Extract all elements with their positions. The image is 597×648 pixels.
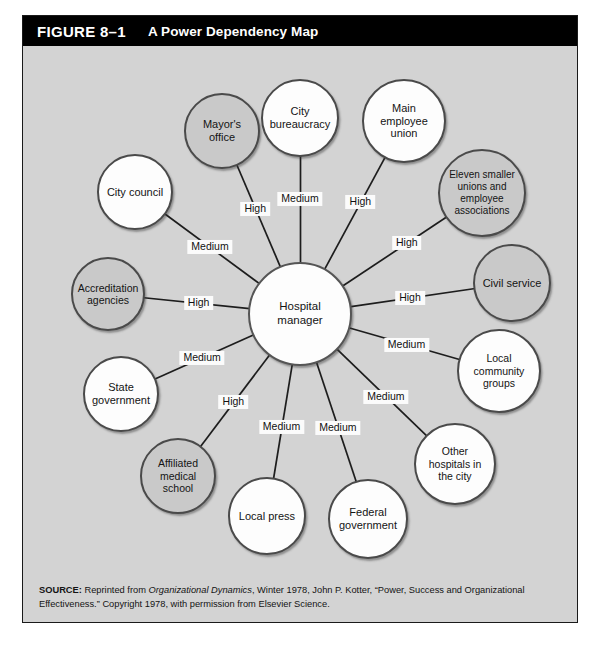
node-label-main-employee-union: Main employee union: [370, 102, 438, 141]
source-note: SOURCE: Reprinted from Organizational Dy…: [23, 576, 577, 622]
edge-hospital-manager-to-main-employee-union: [325, 157, 385, 269]
edge-label-eleven-smaller-unions: High: [392, 236, 422, 250]
node-label-local-community-groups: Local community groups: [464, 352, 534, 389]
node-label-other-hospitals: Other hospitals in the city: [422, 445, 488, 482]
edge-hospital-manager-to-eleven-smaller-unions: [343, 217, 447, 286]
node-label-state-government: State government: [86, 381, 156, 407]
edge-hospital-manager-to-mayors-office: [237, 165, 281, 267]
node-label-local-press: Local press: [236, 510, 298, 523]
source-publication: Organizational Dynamics: [149, 585, 252, 595]
node-federal-government[interactable]: Federal government: [328, 479, 408, 559]
edge-label-other-hospitals: Medium: [363, 390, 408, 404]
figure-frame: FIGURE 8–1 A Power Dependency Map Hospit…: [22, 15, 578, 623]
edge-label-city-council: Medium: [187, 240, 232, 254]
figure-header: FIGURE 8–1 A Power Dependency Map: [23, 16, 577, 46]
node-civil-service[interactable]: Civil service: [473, 244, 551, 322]
node-hospital-manager[interactable]: Hospital manager: [248, 262, 352, 366]
power-dependency-diagram: Hospital managerCity bureaucracyMayor's …: [23, 46, 577, 576]
edge-label-accreditation-agencies: High: [184, 296, 214, 310]
edge-label-local-press: Medium: [259, 420, 304, 434]
node-local-community-groups[interactable]: Local community groups: [457, 329, 541, 413]
node-label-city-bureaucracy: City bureaucracy: [264, 105, 336, 131]
node-label-civil-service: Civil service: [480, 277, 545, 290]
node-mayors-office[interactable]: Mayor's office: [184, 93, 260, 169]
edge-label-state-government: Medium: [179, 351, 224, 365]
edge-label-mayors-office: High: [240, 202, 270, 216]
node-city-bureaucracy[interactable]: City bureaucracy: [261, 79, 339, 157]
edge-label-affiliated-medical-school: High: [219, 395, 249, 409]
source-text-1: Reprinted from: [82, 585, 149, 595]
figure-title: A Power Dependency Map: [148, 24, 319, 39]
node-affiliated-medical-school[interactable]: Affiliated medical school: [140, 438, 216, 514]
node-label-hospital-manager: Hospital manager: [262, 300, 338, 327]
source-label: SOURCE:: [39, 585, 82, 595]
node-label-eleven-smaller-unions: Eleven smaller unions and employee assoc…: [444, 169, 520, 216]
node-local-press[interactable]: Local press: [228, 477, 306, 555]
node-city-council[interactable]: City council: [97, 154, 173, 230]
node-label-city-council: City council: [104, 186, 166, 199]
node-other-hospitals[interactable]: Other hospitals in the city: [414, 423, 496, 505]
node-eleven-smaller-unions[interactable]: Eleven smaller unions and employee assoc…: [438, 149, 526, 237]
edge-label-main-employee-union: High: [346, 195, 376, 209]
node-label-accreditation-agencies: Accreditation agencies: [73, 282, 143, 307]
node-label-affiliated-medical-school: Affiliated medical school: [145, 457, 211, 494]
node-label-mayors-office: Mayor's office: [188, 118, 256, 144]
node-state-government[interactable]: State government: [83, 356, 159, 432]
edge-label-federal-government: Medium: [315, 421, 360, 435]
figure-number: FIGURE 8–1: [37, 23, 126, 40]
node-main-employee-union[interactable]: Main employee union: [362, 79, 446, 163]
edge-label-civil-service: High: [395, 291, 425, 305]
node-accreditation-agencies[interactable]: Accreditation agencies: [71, 257, 145, 331]
node-label-federal-government: Federal government: [333, 506, 403, 532]
edge-label-city-bureaucracy: Medium: [277, 192, 322, 206]
edge-label-local-community-groups: Medium: [384, 337, 429, 351]
